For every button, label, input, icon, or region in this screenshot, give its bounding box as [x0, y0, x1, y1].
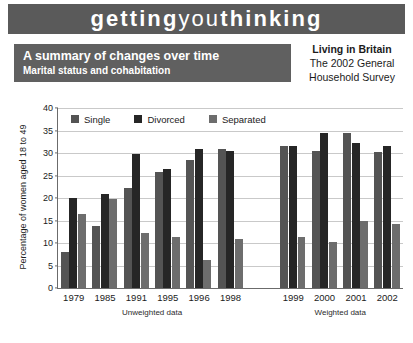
- plot-area: 0510152025303540 19791985199119951996199…: [57, 108, 403, 289]
- masthead-title: gettingyouthinking: [90, 8, 322, 30]
- bar: [172, 237, 180, 288]
- page-subtitle: Marital status and cohabitation: [23, 64, 291, 78]
- bar: [186, 160, 194, 288]
- bar: [320, 133, 328, 288]
- legend-label: Separated: [222, 114, 266, 125]
- y-tick-label: 40: [43, 103, 53, 113]
- bar: [392, 224, 400, 288]
- bar: [141, 233, 149, 288]
- y-axis-label: Percentage of women aged 18 to 49: [18, 102, 28, 292]
- chart-legend: SingleDivorcedSeparated: [57, 108, 402, 130]
- x-tick-label: 1991: [126, 292, 147, 303]
- bar: [352, 143, 360, 288]
- y-tick-label: 15: [43, 216, 53, 226]
- x-tick-label: 1996: [189, 292, 210, 303]
- y-tick-label: 35: [43, 126, 53, 136]
- bar: [226, 151, 234, 288]
- legend-swatch-icon: [209, 115, 217, 123]
- bar: [298, 237, 306, 288]
- page-root: gettingyouthinking A summary of changes …: [0, 0, 413, 343]
- source-line-3: Household Survey: [296, 70, 408, 84]
- bar: [203, 260, 211, 288]
- masthead-part-you: you: [178, 6, 220, 31]
- x-axis-group-label: Unweighted data: [122, 308, 182, 317]
- bar: [329, 242, 337, 288]
- x-tick-label: 1995: [157, 292, 178, 303]
- bar: [343, 133, 351, 288]
- x-tick-label: 1979: [63, 292, 84, 303]
- page-title: A summary of changes over time: [23, 48, 291, 64]
- x-tick-label: 2001: [345, 292, 366, 303]
- bar: [374, 152, 382, 288]
- y-tick-label: 0: [48, 283, 53, 293]
- x-tick-label: 2002: [377, 292, 398, 303]
- masthead-banner: gettingyouthinking: [8, 4, 405, 34]
- bar: [383, 146, 391, 288]
- bar: [360, 221, 368, 289]
- bar: [218, 149, 226, 288]
- bar: [132, 154, 140, 288]
- bar: [78, 214, 86, 288]
- bar: [280, 146, 288, 288]
- bar: [155, 172, 163, 288]
- x-tick-label: 1999: [283, 292, 304, 303]
- legend-label: Divorced: [147, 114, 185, 125]
- legend-item: Single: [71, 114, 110, 125]
- y-tick-label: 20: [43, 193, 53, 203]
- x-tick-label: 1998: [220, 292, 241, 303]
- bar: [163, 169, 171, 288]
- bar: [101, 194, 109, 288]
- legend-label: Single: [84, 114, 110, 125]
- legend-item: Separated: [209, 114, 266, 125]
- legend-item: Divorced: [134, 114, 185, 125]
- source-attribution: Living in Britain The 2002 General House…: [296, 42, 408, 84]
- bar: [289, 146, 297, 288]
- masthead-part-thinking: thinking: [220, 6, 322, 31]
- bar: [69, 198, 77, 288]
- title-band: A summary of changes over time Marital s…: [14, 44, 291, 82]
- bar: [195, 149, 203, 288]
- source-line-1: Living in Britain: [296, 42, 408, 56]
- masthead-part-getting: getting: [90, 6, 178, 31]
- source-line-2: The 2002 General: [296, 56, 408, 70]
- legend-swatch-icon: [71, 115, 79, 123]
- x-tick-label: 1985: [94, 292, 115, 303]
- legend-swatch-icon: [134, 115, 142, 123]
- y-tick-label: 25: [43, 171, 53, 181]
- bars-group: [58, 108, 403, 288]
- x-tick-label: 2000: [314, 292, 335, 303]
- bar: [61, 252, 69, 288]
- bar: [92, 226, 100, 288]
- bar: [109, 199, 117, 288]
- y-tick-label: 5: [48, 261, 53, 271]
- bar: [312, 151, 320, 288]
- x-axis-group-label: Weighted data: [315, 308, 366, 317]
- y-tick-label: 10: [43, 238, 53, 248]
- y-tick-label: 30: [43, 148, 53, 158]
- bar: [124, 188, 132, 288]
- bar-chart: Percentage of women aged 18 to 49 051015…: [0, 96, 413, 343]
- bar: [235, 239, 243, 288]
